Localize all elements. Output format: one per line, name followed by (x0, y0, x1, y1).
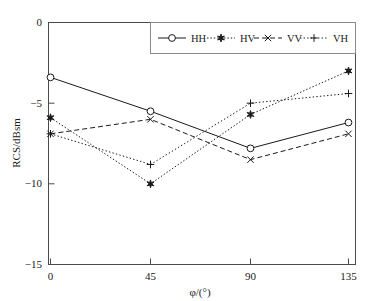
series-layer (47, 67, 353, 188)
x-tick-label-90: 90 (245, 270, 257, 282)
y-axis-title: RCS/dBsm (10, 118, 22, 168)
data-point-hh-2 (247, 145, 254, 152)
data-point-hh-0 (47, 74, 54, 81)
y-tick-label-minus5: −5 (30, 97, 42, 109)
x-tick-label-135: 135 (340, 270, 357, 282)
data-point-vv-3 (345, 131, 351, 137)
y-tick-label-0: 0 (37, 16, 43, 28)
data-point-vh-2 (247, 99, 255, 107)
legend-label-hh: HH (191, 33, 207, 44)
data-point-vv-2 (247, 156, 253, 162)
y-axis-ticks (49, 23, 55, 265)
series-hh (47, 74, 352, 152)
x-axis-ticks (51, 259, 349, 265)
plot-frame (49, 23, 356, 265)
chart-figure: 0 −5 −10 −15 0 45 90 135 φ/(°) RCS/dBsm … (0, 0, 376, 301)
x-axis-title: φ/(°) (189, 286, 210, 299)
legend-label-vh: VH (333, 33, 349, 44)
y-tick-label-minus15: −15 (25, 258, 43, 270)
data-point-hh-3 (345, 119, 352, 126)
data-point-vh-3 (345, 90, 353, 98)
x-tick-label-45: 45 (145, 270, 157, 282)
legend-label-hv: HV (240, 33, 256, 44)
legend-marker-hh (169, 35, 176, 42)
data-point-hv-1 (147, 180, 154, 188)
series-vv (47, 116, 351, 163)
x-tick-label-0: 0 (48, 270, 54, 282)
y-tick-label-minus10: −10 (25, 177, 43, 189)
rcs-line-chart: 0 −5 −10 −15 0 45 90 135 φ/(°) RCS/dBsm … (0, 0, 376, 301)
data-point-hv-2 (247, 111, 254, 119)
data-point-hh-1 (147, 108, 154, 115)
data-point-hv-3 (345, 67, 352, 75)
data-point-vh-1 (147, 161, 155, 169)
